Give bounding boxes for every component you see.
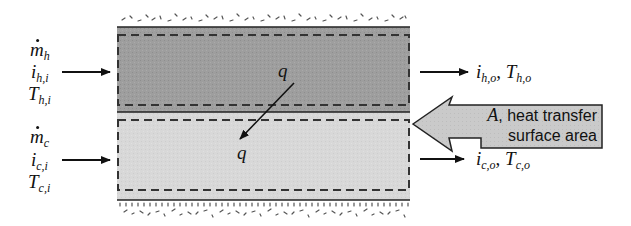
- hot-fluid-channel: [117, 27, 410, 112]
- hot-outlet-label: ih,o, Th,o: [476, 62, 531, 88]
- cold-outlet-label: ic,o, Tc,o: [476, 149, 530, 175]
- insulation-bottom: [120, 203, 408, 217]
- callout-line-1: A, heat transfer: [470, 105, 597, 126]
- heat-exchanger-diagram: mh ih,i Th,i mc ic,i Tc,i ih,o, Th,o ic,…: [0, 0, 631, 226]
- callout-line-2: surface area: [470, 126, 597, 146]
- cold-fluid-channel: [117, 112, 410, 200]
- hot-inlet-temperature-label: Th,i: [28, 84, 51, 110]
- surface-area-callout-text: A, heat transfer surface area: [470, 105, 597, 146]
- cold-inlet-temperature-label: Tc,i: [28, 172, 50, 198]
- insulation-top: [122, 14, 406, 21]
- mass-flow-symbol: m: [30, 40, 44, 60]
- mass-flow-symbol: m: [30, 127, 44, 147]
- heat-rate-label-bottom: q: [237, 142, 247, 164]
- heat-rate-label-top: q: [278, 60, 288, 82]
